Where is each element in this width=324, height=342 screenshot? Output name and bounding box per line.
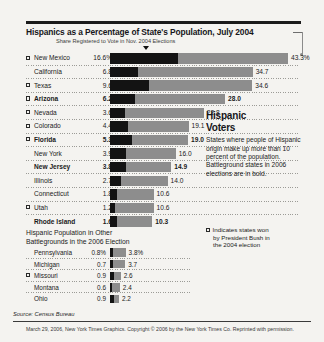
sidebar-title: Hispanic Voters bbox=[206, 110, 302, 133]
share-value: 0.9 bbox=[84, 295, 106, 302]
bush-state-checkbox-icon bbox=[26, 110, 30, 114]
total-value: 3.8% bbox=[129, 249, 144, 256]
bar-registered bbox=[110, 67, 138, 77]
bar-group bbox=[110, 295, 119, 303]
bar-registered bbox=[110, 135, 132, 145]
panel2-title: Hispanic Population in Other Battlegroun… bbox=[26, 229, 196, 246]
bar-group bbox=[110, 67, 253, 77]
share-value: 3.6 bbox=[88, 109, 112, 116]
bar-group bbox=[110, 203, 154, 213]
table-row: Ohio0.92.2 bbox=[26, 293, 191, 305]
table-row: Michigan0.73.7 bbox=[26, 259, 191, 271]
top-rule bbox=[26, 21, 301, 24]
total-value: 34.6 bbox=[255, 82, 268, 89]
total-value: 2.6 bbox=[124, 272, 133, 279]
bar-registered bbox=[110, 94, 135, 104]
bar-registered bbox=[110, 108, 125, 118]
sidebar-title-line1: Hispanic bbox=[206, 110, 246, 121]
state-name: Rhode Island bbox=[34, 218, 75, 225]
share-value: 0.6 bbox=[84, 284, 106, 291]
table-row: Utah1.210.6 bbox=[26, 202, 298, 216]
bar-registered bbox=[110, 283, 112, 291]
bar-registered bbox=[110, 216, 117, 226]
total-value: 10.6 bbox=[157, 190, 170, 197]
footer-rule bbox=[13, 321, 311, 322]
legend-line2: by President Bush in bbox=[206, 234, 310, 242]
share-value: 6.8 bbox=[88, 68, 112, 75]
bush-state-checkbox-icon bbox=[26, 137, 30, 141]
share-value: 3.8 bbox=[88, 163, 112, 170]
table-row: New Mexico16.6%43.3% bbox=[26, 52, 298, 66]
state-name: Florida bbox=[34, 136, 56, 143]
total-value: 43.3% bbox=[291, 54, 310, 61]
bush-legend: Indicates states won by President Bush i… bbox=[206, 226, 310, 249]
state-name: Ohio bbox=[34, 295, 48, 302]
total-value: 14.9 bbox=[174, 163, 187, 170]
table-row: Pennsylvania0.8%3.8% bbox=[26, 247, 191, 259]
total-value: 19.1 bbox=[192, 122, 205, 129]
share-value: 0.9 bbox=[84, 272, 106, 279]
sidebar-note: Hispanic Voters States where people of H… bbox=[206, 110, 302, 178]
bar-registered bbox=[110, 248, 113, 256]
bar-group bbox=[110, 272, 121, 280]
total-value: 2.4 bbox=[123, 284, 132, 291]
state-name: Colorado bbox=[34, 122, 61, 129]
table-row: Connecticut1.810.6 bbox=[26, 188, 298, 202]
total-value: 10.6 bbox=[157, 204, 170, 211]
table-row: Arizona6.228.0 bbox=[26, 93, 298, 107]
share-value: 4.4 bbox=[88, 122, 112, 129]
bush-state-checkbox-icon bbox=[26, 56, 30, 60]
bar-registered bbox=[110, 162, 126, 172]
bar-group bbox=[110, 108, 204, 118]
chart-subtitle: Share Registered to Vote in Nov. 2004 El… bbox=[56, 38, 175, 44]
bar-group bbox=[110, 248, 126, 256]
bar-group bbox=[110, 216, 152, 226]
bar-group bbox=[110, 121, 189, 131]
share-marker-icon bbox=[143, 46, 149, 50]
state-name: Montana bbox=[34, 284, 59, 291]
bar-group bbox=[110, 260, 125, 268]
bar-group bbox=[110, 80, 252, 90]
bar-group bbox=[110, 162, 171, 172]
sidebar-body: States where people of Hispanic origin m… bbox=[206, 136, 302, 178]
state-name: Michigan bbox=[34, 261, 60, 268]
table-row: Montana0.62.4 bbox=[26, 282, 191, 294]
share-value: 1.6 bbox=[88, 218, 112, 225]
page-title: Hispanics as a Percentage of State's Pop… bbox=[26, 27, 296, 37]
bush-state-checkbox-icon bbox=[26, 96, 30, 100]
state-name: California bbox=[34, 68, 62, 75]
share-value: 16.6% bbox=[88, 54, 112, 61]
share-value: 9.6 bbox=[88, 82, 112, 89]
state-name: New Jersey bbox=[34, 163, 70, 170]
table-row: Texas9.634.6 bbox=[26, 79, 298, 93]
state-name: Connecticut bbox=[34, 190, 69, 197]
bush-state-checkbox-icon bbox=[26, 205, 30, 209]
bar-group bbox=[110, 94, 225, 104]
share-value: 3.9 bbox=[88, 150, 112, 157]
bar-population bbox=[110, 203, 154, 213]
checkbox-icon bbox=[206, 228, 210, 232]
infographic-page: Hispanics as a Percentage of State's Pop… bbox=[0, 0, 324, 342]
bar-registered bbox=[110, 176, 121, 186]
total-value: 34.7 bbox=[256, 68, 269, 75]
legend-line3: the 2004 election bbox=[206, 241, 310, 249]
state-name: Missouri bbox=[34, 272, 58, 279]
share-value: 5.3 bbox=[88, 136, 112, 143]
table-row: Missouri0.92.6 bbox=[26, 270, 191, 282]
source-label: Source: Census Bureau bbox=[13, 311, 75, 317]
state-name: New Mexico bbox=[34, 54, 70, 61]
bar-registered bbox=[110, 121, 128, 131]
table-row: California6.834.7 bbox=[26, 66, 298, 80]
panel2-title-line2: Battlegrounds in the 2006 Election bbox=[26, 238, 130, 245]
bar-group bbox=[110, 176, 168, 186]
bar-group bbox=[110, 135, 188, 145]
bar-group bbox=[110, 283, 120, 291]
state-name: New York bbox=[34, 150, 62, 157]
bar-registered bbox=[110, 53, 178, 63]
share-value: 2.7 bbox=[88, 177, 112, 184]
bush-state-checkbox-icon bbox=[26, 83, 30, 87]
bar-group bbox=[110, 148, 176, 158]
bar-registered bbox=[110, 260, 113, 268]
share-value: 0.7 bbox=[84, 261, 106, 268]
total-value: 2.2 bbox=[122, 295, 131, 302]
